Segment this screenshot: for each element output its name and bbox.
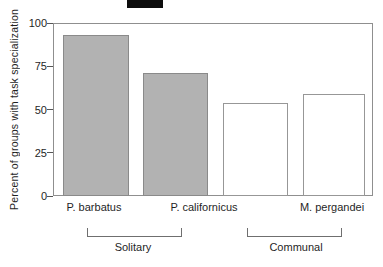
communal-group-bracket xyxy=(247,228,342,237)
bar-3 xyxy=(223,103,288,196)
y-tick-label: 0 xyxy=(18,190,47,202)
solitary-group-bracket xyxy=(87,228,182,237)
bar-2 xyxy=(143,73,208,196)
bar-4 xyxy=(303,94,365,196)
x-tick-label-p-californicus: P. californicus xyxy=(170,201,237,213)
scan-artifact-black-bar xyxy=(127,0,163,8)
bar-1 xyxy=(63,35,129,196)
y-tick-mark xyxy=(47,23,53,24)
y-tick-label: 75 xyxy=(18,60,47,72)
y-tick-label: 50 xyxy=(18,104,47,116)
x-tick-label-p-barbatus: P. barbatus xyxy=(67,201,122,213)
y-tick-label: 25 xyxy=(18,147,47,159)
y-tick-mark xyxy=(47,196,53,197)
x-tick-label-m-pergandei: M. pergandei xyxy=(300,201,364,213)
bar-chart-figure: Percent of groups with task specializati… xyxy=(0,0,383,267)
y-tick-label: 100 xyxy=(18,17,47,29)
y-tick-mark xyxy=(47,152,53,153)
solitary-group-label: Solitary xyxy=(115,241,152,253)
y-tick-mark xyxy=(47,109,53,110)
y-tick-mark xyxy=(47,66,53,67)
communal-group-label: Communal xyxy=(269,241,322,253)
